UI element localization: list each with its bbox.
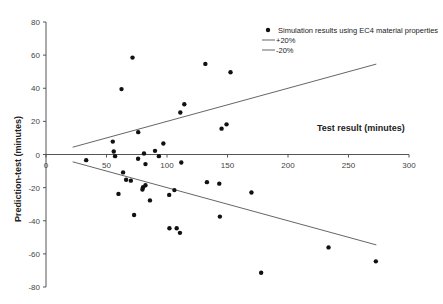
- plus-20-line: [73, 64, 377, 147]
- x-tick-label: 250: [342, 161, 356, 170]
- y-tick-label: -60: [28, 250, 40, 259]
- legend-label: -20%: [276, 46, 294, 55]
- data-point: [130, 55, 134, 59]
- data-point: [140, 187, 144, 191]
- data-point: [136, 130, 140, 134]
- data-point: [259, 271, 263, 275]
- y-tick-label: 60: [31, 51, 40, 60]
- legend-label: Simulation results using EC4 material pr…: [278, 26, 438, 35]
- data-point: [157, 154, 161, 158]
- data-point: [217, 181, 221, 185]
- data-point: [178, 110, 182, 114]
- x-axis-title: Test result (minutes): [317, 123, 405, 133]
- x-tick-label: 200: [281, 161, 295, 170]
- data-point: [203, 62, 207, 66]
- y-tick-label: -80: [28, 283, 40, 292]
- data-point: [249, 190, 253, 194]
- legend-label: +20%: [276, 36, 296, 45]
- x-tick-label: 100: [160, 161, 174, 170]
- data-point: [84, 158, 88, 162]
- data-point: [113, 154, 117, 158]
- minus-20-line: [73, 162, 377, 245]
- scatter-chart: 806040200-20-40-60-80050100150200250300 …: [0, 0, 443, 304]
- x-tick-label: 150: [221, 161, 235, 170]
- data-point: [143, 162, 147, 166]
- data-point: [119, 87, 123, 91]
- data-point: [111, 139, 115, 143]
- data-point: [142, 151, 146, 155]
- axes: 806040200-20-40-60-80050100150200250300: [28, 18, 416, 292]
- data-point: [172, 188, 176, 192]
- data-point: [143, 183, 147, 187]
- data-point: [178, 231, 182, 235]
- data-point: [219, 126, 223, 130]
- data-point: [124, 177, 128, 181]
- data-point: [174, 226, 178, 230]
- data-point: [205, 180, 209, 184]
- data-point: [112, 149, 116, 153]
- y-tick-label: 80: [31, 18, 40, 27]
- data-point: [116, 192, 120, 196]
- x-tick-label: 0: [44, 161, 49, 170]
- data-point: [129, 178, 133, 182]
- legend-dot-icon: [266, 28, 270, 32]
- y-tick-label: 0: [36, 151, 41, 160]
- data-point: [224, 122, 228, 126]
- data-point: [132, 213, 136, 217]
- data-point: [148, 198, 152, 202]
- data-point: [167, 226, 171, 230]
- data-point: [136, 157, 140, 161]
- data-point: [228, 70, 232, 74]
- data-point: [121, 170, 125, 174]
- y-axis-title: Prediction-test (minutes): [13, 116, 23, 222]
- y-tick-label: 40: [31, 84, 40, 93]
- x-tick-label: 300: [402, 161, 416, 170]
- data-point: [161, 141, 165, 145]
- data-point: [374, 259, 378, 263]
- data-point: [153, 149, 157, 153]
- data-point: [167, 193, 171, 197]
- y-tick-label: 20: [31, 117, 40, 126]
- data-point: [218, 214, 222, 218]
- data-point: [326, 245, 330, 249]
- x-tick-label: 50: [102, 161, 111, 170]
- y-tick-label: -20: [28, 184, 40, 193]
- data-point: [179, 160, 183, 164]
- y-tick-label: -40: [28, 217, 40, 226]
- legend: Simulation results using EC4 material pr…: [262, 26, 438, 55]
- data-point: [182, 102, 186, 106]
